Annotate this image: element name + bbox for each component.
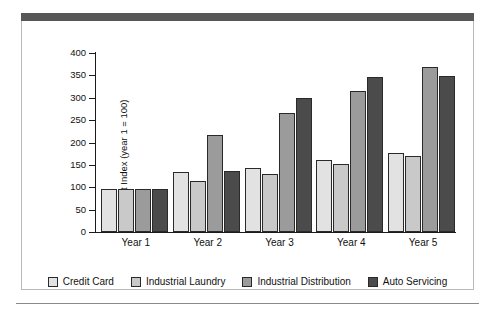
bar bbox=[405, 156, 421, 232]
y-axis-tick bbox=[89, 165, 96, 166]
y-axis-tick bbox=[89, 75, 96, 76]
legend-swatch-icon bbox=[242, 277, 252, 287]
bar-group bbox=[388, 53, 458, 232]
y-axis-tick-label: 100 bbox=[56, 182, 86, 192]
bar bbox=[422, 67, 438, 232]
bar bbox=[333, 164, 349, 232]
bar bbox=[118, 189, 134, 232]
bar bbox=[350, 91, 366, 232]
y-axis-tick-label: 0 bbox=[56, 227, 86, 237]
bar bbox=[279, 113, 295, 232]
bar bbox=[224, 171, 240, 232]
y-axis-tick-label: 400 bbox=[56, 48, 86, 58]
bar-group bbox=[173, 53, 243, 232]
bar-group bbox=[245, 53, 315, 232]
legend-swatch-icon bbox=[48, 277, 58, 287]
legend-item[interactable]: Industrial Distribution bbox=[242, 277, 350, 287]
legend-swatch-icon bbox=[368, 277, 378, 287]
x-axis-tick-label: Year 5 bbox=[378, 237, 468, 248]
y-axis-tick bbox=[89, 53, 96, 54]
bar bbox=[262, 174, 278, 232]
y-axis-tick bbox=[89, 98, 96, 99]
bar bbox=[367, 77, 383, 232]
chart-figure-page: Profit Index (year 1 = 100) 050100150200… bbox=[0, 0, 495, 316]
chart-legend: Credit CardIndustrial LaundryIndustrial … bbox=[21, 272, 474, 292]
bar bbox=[245, 168, 261, 232]
y-axis-tick-label: 250 bbox=[56, 115, 86, 125]
bar bbox=[439, 76, 455, 232]
bar-group bbox=[101, 53, 171, 232]
legend-swatch-icon bbox=[131, 277, 141, 287]
bar bbox=[152, 189, 168, 232]
legend-label: Credit Card bbox=[63, 277, 114, 287]
legend-label: Industrial Laundry bbox=[146, 277, 226, 287]
y-axis-tick bbox=[89, 210, 96, 211]
y-axis-tick-label: 350 bbox=[56, 70, 86, 80]
y-axis-tick-label: 150 bbox=[56, 160, 86, 170]
bar bbox=[388, 153, 404, 232]
bar-group bbox=[316, 53, 386, 232]
y-axis-tick bbox=[89, 232, 96, 233]
x-axis-line bbox=[95, 232, 456, 233]
legend-label: Auto Servicing bbox=[383, 277, 447, 287]
y-axis-tick-label: 50 bbox=[56, 205, 86, 215]
y-axis-tick bbox=[89, 187, 96, 188]
y-axis-tick-label: 200 bbox=[56, 138, 86, 148]
legend-item[interactable]: Auto Servicing bbox=[368, 277, 447, 287]
bar bbox=[190, 181, 206, 232]
legend-label: Industrial Distribution bbox=[257, 277, 350, 287]
y-axis-tick bbox=[89, 120, 96, 121]
figure-header-bar bbox=[21, 13, 474, 21]
legend-item[interactable]: Industrial Laundry bbox=[131, 277, 226, 287]
bar bbox=[101, 189, 117, 232]
legend-item[interactable]: Credit Card bbox=[48, 277, 114, 287]
bar bbox=[316, 160, 332, 232]
bar bbox=[173, 172, 189, 232]
y-axis-tick bbox=[89, 143, 96, 144]
footer-rule bbox=[16, 303, 479, 304]
bar bbox=[135, 189, 151, 232]
bar bbox=[207, 135, 223, 232]
y-axis-tick-label: 300 bbox=[56, 93, 86, 103]
bar bbox=[296, 98, 312, 232]
